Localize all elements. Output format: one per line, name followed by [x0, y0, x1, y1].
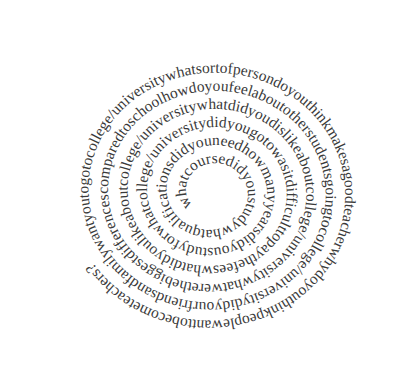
spiral-text: whatcoursedidyoustudywhatqualificationsd… [74, 59, 359, 335]
text-spiral-figure: whatcoursedidyoustudywhatqualificationsd… [0, 0, 400, 370]
spiral-text-path: whatcoursedidyoustudywhatqualificationsd… [74, 59, 359, 335]
